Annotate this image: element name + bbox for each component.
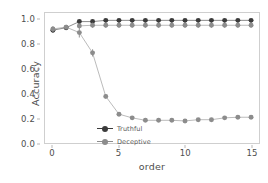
data-point: [103, 23, 108, 28]
data-point: [143, 18, 148, 23]
x-tick-label: 5: [116, 148, 122, 158]
data-point: [90, 50, 95, 55]
x-tick-mark: [52, 145, 53, 148]
data-point: [183, 18, 188, 23]
x-axis-ticks: 051015: [44, 145, 260, 159]
data-point: [249, 23, 254, 28]
data-point: [235, 115, 240, 120]
data-point: [183, 23, 188, 28]
data-point: [209, 117, 214, 122]
data-point: [183, 118, 188, 123]
x-tick-mark: [185, 145, 186, 148]
data-point: [77, 19, 82, 24]
data-point: [156, 23, 161, 28]
data-point: [209, 18, 214, 23]
data-point: [156, 18, 161, 23]
y-tick-mark: [37, 19, 40, 20]
series-line: [53, 27, 251, 121]
data-point: [50, 26, 55, 31]
data-point: [103, 94, 108, 99]
legend-label: Truthful: [117, 125, 143, 133]
data-point: [169, 23, 174, 28]
data-point: [64, 25, 69, 30]
data-point: [130, 18, 135, 23]
x-tick-label: 0: [49, 148, 55, 158]
data-point: [196, 18, 201, 23]
data-point: [90, 23, 95, 28]
data-point: [249, 18, 254, 23]
x-tick-mark: [252, 145, 253, 148]
y-tick-label: 1.0: [21, 14, 35, 24]
data-point: [143, 23, 148, 28]
data-point: [196, 117, 201, 122]
y-tick-label: 0.0: [21, 139, 35, 149]
legend-marker-icon: [97, 124, 113, 133]
legend-dot: [102, 139, 108, 145]
x-tick-mark: [118, 145, 119, 148]
data-point: [196, 23, 201, 28]
data-point: [235, 23, 240, 28]
data-point: [116, 23, 121, 28]
data-point: [77, 30, 82, 35]
chart-figure: 0.00.20.40.60.81.0 Accuracy TruthfulDece…: [0, 0, 268, 183]
data-point: [169, 18, 174, 23]
data-point: [222, 23, 227, 28]
data-point: [130, 23, 135, 28]
data-point: [116, 112, 121, 117]
data-point: [130, 115, 135, 120]
x-axis-label: order: [44, 161, 260, 172]
data-point: [77, 23, 82, 28]
data-point: [209, 23, 214, 28]
plot-area: TruthfulDeceptive: [44, 12, 260, 144]
data-point: [235, 18, 240, 23]
series-deceptive-upper-band: [77, 23, 254, 29]
data-point: [222, 18, 227, 23]
data-point: [222, 115, 227, 120]
y-axis-label: Accuracy: [30, 39, 41, 129]
legend-dot: [102, 126, 108, 132]
data-point: [249, 115, 254, 120]
data-point: [169, 118, 174, 123]
x-tick-label: 15: [246, 148, 257, 158]
series-deceptive: [50, 25, 253, 124]
y-tick-mark: [37, 144, 40, 145]
x-tick-label: 10: [180, 148, 191, 158]
legend-item-truthful[interactable]: Truthful: [97, 123, 167, 134]
data-point: [116, 18, 121, 23]
data-point: [103, 18, 108, 23]
